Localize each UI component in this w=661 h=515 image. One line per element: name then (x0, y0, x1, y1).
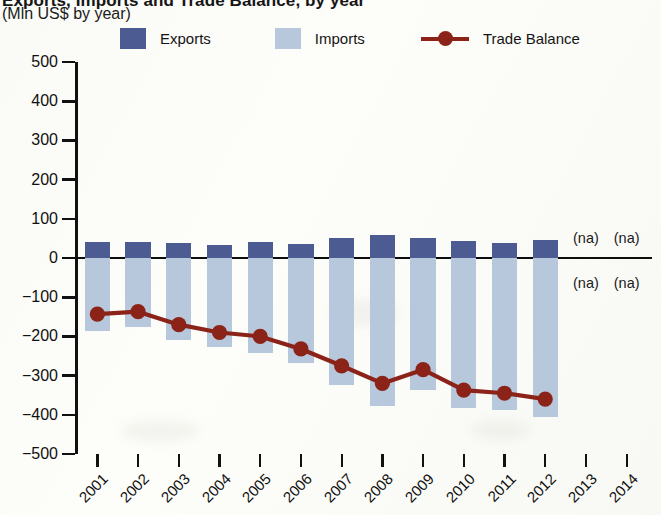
x-tick-label-2010: 2010 (435, 470, 478, 513)
x-tick (218, 454, 220, 467)
legend-label-exports: Exports (160, 30, 211, 47)
x-tick (503, 454, 505, 467)
na-label-2013-above-zero: (na) (573, 230, 599, 246)
legend-label-trade-balance: Trade Balance (483, 30, 580, 47)
trade-balance-point-2006[interactable] (293, 341, 308, 356)
y-tick (62, 414, 75, 417)
plot-area: 5004003002001000−100−200−300−400−500 (na… (75, 62, 645, 454)
trade-balance-point-2010[interactable] (456, 383, 471, 398)
x-tick-label-2013: 2013 (557, 470, 600, 513)
y-tick-label: 200 (31, 171, 58, 189)
x-tick-label-2009: 2009 (394, 470, 437, 513)
y-tick-label: 300 (31, 131, 58, 149)
trade-balance-point-2004[interactable] (212, 325, 227, 340)
x-tick (96, 454, 98, 467)
x-tick (341, 454, 343, 467)
x-tick-label-2001: 2001 (68, 470, 111, 513)
x-tick (259, 454, 261, 467)
exports-swatch-icon (120, 28, 146, 49)
y-tick (62, 296, 75, 299)
y-tick-label: −200 (22, 327, 58, 345)
x-tick (585, 454, 587, 467)
x-tick-label-2006: 2006 (272, 470, 315, 513)
y-tick-label: 100 (31, 210, 58, 228)
y-tick (62, 100, 75, 103)
imports-swatch-icon (275, 28, 301, 49)
x-tick-label-2014: 2014 (598, 470, 641, 513)
trade-balance-point-2007[interactable] (334, 358, 349, 373)
trade-balance-point-2001[interactable] (90, 306, 105, 321)
x-tick-label-2002: 2002 (109, 470, 152, 513)
legend-item-imports[interactable]: Imports (275, 28, 365, 49)
x-tick (544, 454, 546, 467)
y-tick (62, 61, 75, 64)
x-tick (137, 454, 139, 467)
chart-legend: Exports Imports Trade Balance (120, 28, 580, 49)
trade-balance-point-2009[interactable] (415, 362, 430, 377)
legend-label-imports: Imports (315, 30, 365, 47)
trade-balance-point-2011[interactable] (497, 386, 512, 401)
chart-subtitle: (Mln US$ by year) (2, 5, 131, 23)
trade-balance-series (75, 62, 645, 454)
y-tick-label: 0 (49, 249, 58, 267)
x-tick (463, 454, 465, 467)
x-tick (422, 454, 424, 467)
y-tick-label: −300 (22, 367, 58, 385)
x-tick (300, 454, 302, 467)
x-tick-label-2003: 2003 (150, 470, 193, 513)
legend-item-exports[interactable]: Exports (120, 28, 211, 49)
x-tick-label-2012: 2012 (516, 470, 559, 513)
y-tick (62, 178, 75, 181)
x-tick (626, 454, 628, 467)
trade-balance-point-2012[interactable] (538, 392, 553, 407)
legend-item-trade-balance[interactable]: Trade Balance (421, 28, 580, 49)
y-tick (62, 218, 75, 221)
x-tick (381, 454, 383, 467)
x-tick-label-2011: 2011 (475, 470, 518, 513)
trade-balance-line (97, 312, 545, 399)
y-tick-label: −400 (22, 406, 58, 424)
x-tick-label-2005: 2005 (231, 470, 274, 513)
y-tick (62, 374, 75, 377)
y-tick-label: −500 (22, 445, 58, 463)
trade-balance-point-2003[interactable] (171, 317, 186, 332)
y-tick (62, 335, 75, 338)
trade-balance-line-marker-icon (421, 28, 469, 49)
na-label-2014-above-zero: (na) (614, 230, 640, 246)
y-tick-label: 500 (31, 53, 58, 71)
x-tick (178, 454, 180, 467)
y-tick-label: −100 (22, 288, 58, 306)
y-tick-label: 400 (31, 92, 58, 110)
y-tick (62, 139, 75, 142)
na-label-2013-below-zero: (na) (573, 275, 599, 291)
x-tick-label-2008: 2008 (353, 470, 396, 513)
x-tick-label-2007: 2007 (313, 470, 356, 513)
trade-balance-point-2005[interactable] (253, 329, 268, 344)
x-tick-label-2004: 2004 (190, 470, 233, 513)
na-label-2014-below-zero: (na) (614, 275, 640, 291)
trade-balance-point-2008[interactable] (375, 376, 390, 391)
trade-balance-point-2002[interactable] (130, 304, 145, 319)
y-tick (62, 453, 75, 456)
